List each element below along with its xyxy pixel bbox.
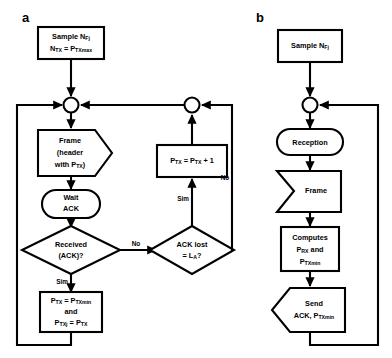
panel-b-send-line1: Send — [305, 299, 323, 308]
panel-a-acklost-line2: = LA? — [183, 251, 203, 260]
panel-b-computes-line1: Computes — [292, 233, 328, 242]
panel-a-edge-label-received-no: No — [132, 240, 141, 247]
panel-b: b Sample NFj Reception Frame Computes — [256, 10, 378, 345]
panel-b-frame-line1: Frame — [305, 186, 327, 195]
panel-a-wait-line2: ACK — [63, 204, 80, 213]
panel-a-setpower-line2: and — [65, 307, 78, 316]
panel-b-label: b — [256, 10, 264, 25]
panel-a-frame-line1: Frame — [59, 136, 81, 145]
panel-b-reception-line1: Reception — [292, 138, 327, 147]
panel-a-acklost-line1: ACK lost — [177, 240, 208, 249]
panel-a-received-line2: (ACK)? — [58, 251, 84, 260]
panel-a-edge-label-ack-lost-no: No — [221, 174, 230, 181]
panel-a-label: a — [22, 10, 30, 25]
panel-a-start-line1: Sample NFj — [52, 32, 90, 41]
panel-b-start-line1: Sample NFj — [291, 41, 329, 50]
panel-a-edge-label-ack-lost-sim: Sim — [177, 195, 189, 202]
panel-b-node-junction — [303, 98, 318, 113]
panel-a-wait-line1: Wait — [63, 193, 79, 202]
figure-container: a Sample NFj NTX = PTXmax Frame (header … — [0, 0, 392, 358]
flowchart-diagram: a Sample NFj NTX = PTXmax Frame (header … — [0, 0, 392, 358]
panel-a-node-junction-right — [185, 98, 200, 113]
panel-a-edge-label-received-sim: Sim — [56, 278, 68, 285]
panel-a: a Sample NFj NTX = PTXmax Frame (header … — [17, 10, 234, 345]
panel-a-frame-line2: (header — [57, 148, 84, 157]
panel-b-computes-line2: PRX and — [296, 245, 323, 254]
panel-a-node-junction-left — [64, 98, 79, 113]
panel-a-received-line1: Received — [55, 240, 87, 249]
